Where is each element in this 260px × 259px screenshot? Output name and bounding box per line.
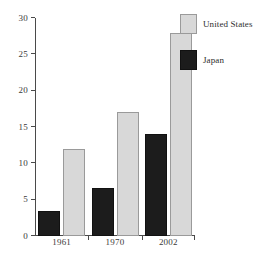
x-axis-label: 1961: [52, 238, 71, 247]
bar-japan-2002: [145, 134, 167, 236]
x-axis-label: 1970: [106, 238, 125, 247]
bar-us-1961: [63, 149, 85, 236]
x-axis-labels: 196119702002: [35, 238, 195, 254]
legend-swatch-us: [180, 14, 197, 34]
bar-us-1970: [117, 112, 139, 236]
chart-legend: United StatesJapan: [180, 14, 260, 86]
y-tick-label: 20: [19, 86, 28, 95]
x-axis-label: 2002: [159, 238, 178, 247]
bars-layer: [35, 18, 195, 236]
y-tick-label: 30: [19, 13, 28, 22]
y-tick-label: 10: [19, 158, 28, 167]
plot-area: 051015202530: [35, 18, 195, 236]
y-tick-label: 25: [19, 49, 28, 58]
bar-chart: 051015202530 196119702002 United StatesJ…: [0, 0, 260, 259]
y-tick-label: 0: [23, 231, 28, 240]
bar-japan-1970: [92, 188, 114, 236]
legend-label: United States: [203, 20, 253, 29]
y-tick-label: 15: [19, 122, 28, 131]
legend-swatch-japan: [180, 50, 197, 70]
legend-entry-us[interactable]: United States: [180, 14, 260, 34]
y-tick-label: 5: [23, 195, 28, 204]
legend-label: Japan: [203, 56, 224, 65]
bar-japan-1961: [38, 211, 60, 236]
legend-entry-japan[interactable]: Japan: [180, 50, 260, 70]
